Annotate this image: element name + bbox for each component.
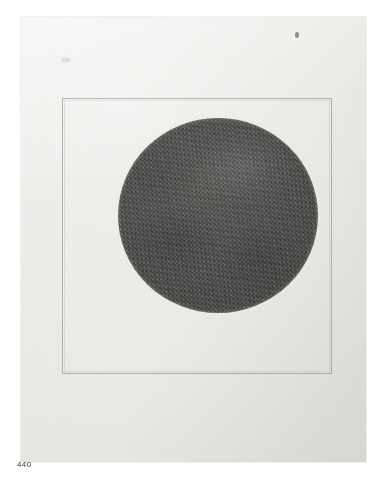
plate-number-caption: 440 (17, 460, 32, 469)
paper-sheet (21, 17, 366, 462)
charcoal-circle (118, 118, 318, 313)
ink-smudge-upper-right (295, 32, 299, 38)
ink-smudge-upper-left (61, 58, 71, 62)
circle-fill (118, 118, 318, 313)
plate-background: 440 (0, 0, 391, 489)
